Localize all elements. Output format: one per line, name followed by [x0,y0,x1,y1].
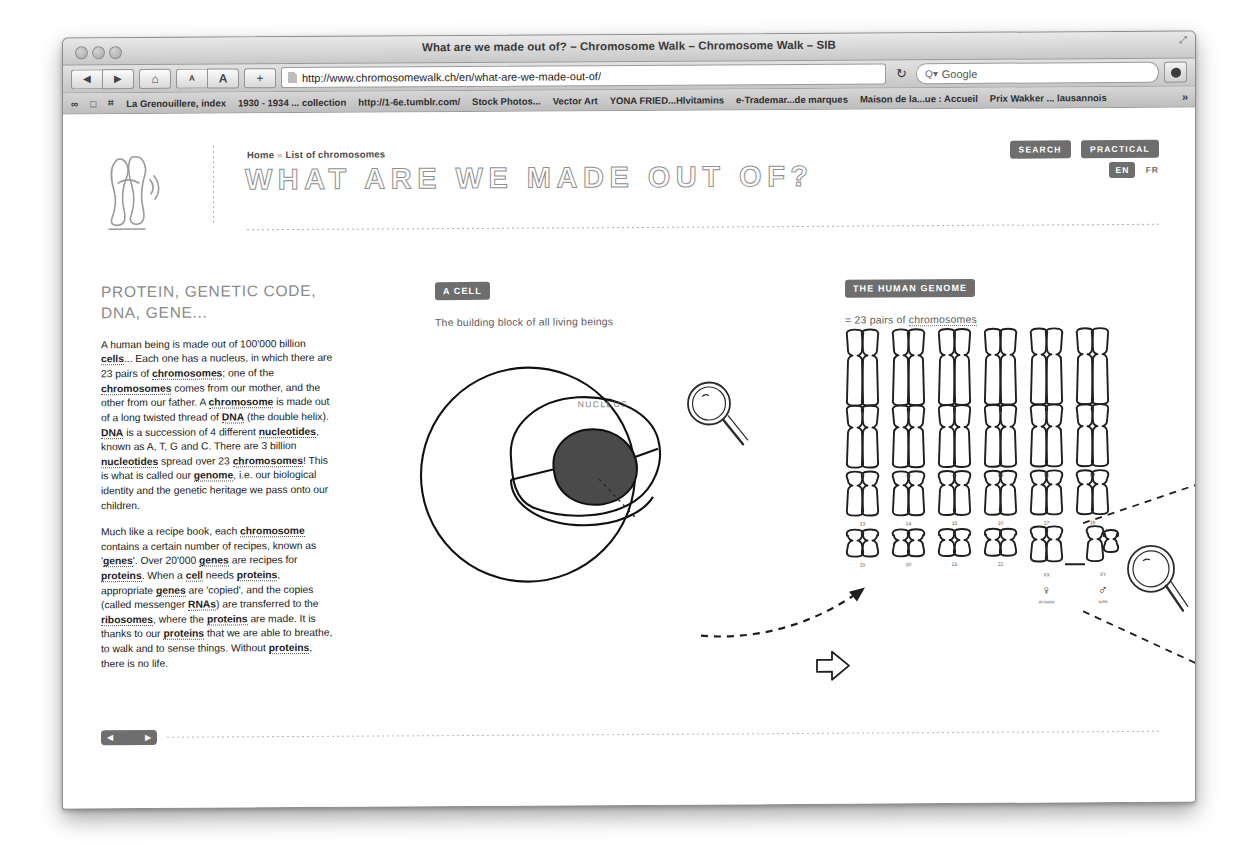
back-button[interactable]: ◀ [71,69,102,89]
forward-button[interactable]: ▶ [102,69,134,89]
female-symbol: ♀ [1042,582,1052,597]
bookmark-item[interactable]: http://1-6e.tumblr.com/ [358,96,460,108]
toolbar-extras-button[interactable] [1164,62,1187,83]
reload-button[interactable]: ↻ [891,65,911,83]
bookmark-item[interactable]: Prix Wakker ... lausannois [990,92,1107,104]
glossary-term: chromosomes [233,455,303,467]
chromosome-logo-icon[interactable] [101,150,171,232]
body-text: spread over 23 [158,455,232,466]
chromosome-shape [1092,404,1109,466]
body-text: needs [203,569,237,580]
glossary-term: chromosomes [152,368,222,380]
chromosome-number-label: 21 [952,561,958,567]
nucleolus-blob [553,429,637,505]
header-actions: SEARCH PRACTICAL EN FR [1004,138,1159,176]
glossary-term: proteins [207,613,248,625]
glossary-term: genes [156,584,186,596]
chromosome-number-label: 9 [953,472,956,478]
chromosome-number-label: 3 [953,410,956,416]
chromosome-number-label: 5 [1045,409,1048,415]
body-text: '. Over 20'000 [133,555,199,566]
increase-text-size-button[interactable]: A [207,68,239,88]
chromosome-number-label: 1 [861,411,864,417]
page-title: WHAT ARE WE MADE OUT OF? [245,160,814,196]
book-icon[interactable]: □ [90,98,96,109]
page-favicon [288,72,297,83]
glossary-term: genome [194,470,233,482]
bookmark-item[interactable]: e-Trademar...de marques [736,93,848,105]
chromosome-number-label: 16 [998,520,1004,526]
nucleus-fold-right [635,449,658,457]
chromosome-shape [954,471,971,515]
magnifier-right-icon [1128,546,1188,611]
chromosome-shape [954,405,971,467]
article-heading: PROTEIN, GENETIC CODE, DNA, GENE... [101,281,333,324]
add-bookmark-button[interactable]: + [244,68,276,88]
pager-control[interactable]: ◀ ▶ [101,730,157,745]
glossary-term: cell [186,570,203,582]
body-text: Much like a recipe book, each [101,526,240,538]
article-column: PROTEIN, GENETIC CODE, DNA, GENE... A hu… [101,281,333,684]
cell-section: A CELL The building block of all living … [435,278,815,328]
address-bar[interactable]: http://www.chromosomewalk.ch/en/what-are… [281,63,886,88]
lang-en-button[interactable]: EN [1109,162,1135,178]
chromosome-shape [862,471,879,515]
bookmark-item[interactable]: La Grenouillere, index [126,97,226,109]
bookmark-item[interactable]: 1930 - 1934 ... collection [238,96,346,108]
chromosome-number-label: 4 [999,410,1002,416]
glossary-term: proteins [163,628,204,640]
url-text: http://www.chromosomewalk.ch/en/what-are… [302,70,601,84]
chromosome-number-label: 11 [1044,471,1049,477]
bookmark-item[interactable]: Stock Photos... [472,95,541,106]
chromosome-number-label: 2 [907,410,910,416]
chromosome-shape [908,405,925,467]
extras-dot-icon [1171,67,1181,77]
body-text: . When a [142,570,186,581]
body-text: , where the [153,613,207,624]
grid-icon[interactable]: ⌗ [108,97,114,109]
glossary-term: RNAs [188,599,216,611]
practical-button[interactable]: PRACTICAL [1081,140,1159,158]
glossary-term: nucleotides [101,456,158,468]
browser-window: What are we made out of? – Chromosome Wa… [62,31,1196,810]
chromosome-number-label: 15 [952,520,958,526]
chromosome-shape [1077,328,1094,404]
reading-glasses-icon[interactable]: ∞ [71,98,78,109]
chromosome-shape [954,329,971,405]
chromosome-shape [1000,329,1017,405]
decrease-text-size-button[interactable]: A [176,68,207,88]
body-text: A human being is made out of 100'000 bil… [101,338,306,350]
prev-page-button[interactable]: ◀ [107,733,113,742]
glossary-term: cells [101,354,124,366]
female-label: WOMAN [1039,599,1055,604]
chromosome-shape [847,330,864,406]
chromosome-shape [985,329,1002,405]
home-button[interactable]: ⌂ [139,68,171,88]
chromosome-shape [1000,405,1017,467]
glossary-term: chromosome [209,396,274,408]
bookmark-item[interactable]: Maison de la...ue : Accueil [860,92,978,104]
zoom-callout-right [1083,462,1195,693]
nucleus-label: NUCLEUS [578,399,628,409]
body-text: is a succession of 4 different [123,426,258,438]
next-page-button[interactable]: ▶ [145,733,151,742]
text-size-group: A A [176,68,239,88]
genome-section: THE HUMAN GENOME = 23 pairs of chromosom… [845,276,1165,326]
bookmarks-overflow-button[interactable]: » [1182,91,1188,103]
window-resize-handle[interactable]: ⤢ [1179,34,1193,48]
footer-dotted-rule [167,731,1159,738]
breadcrumb-home-link[interactable]: Home [247,149,274,160]
glossary-term: proteins [237,569,278,581]
lang-fr-button[interactable]: FR [1146,165,1159,175]
chromosome-number-label: 20 [906,561,912,567]
bookmark-item[interactable]: YONA FRIED...Hlvitamins [610,94,724,106]
glossary-term: chromosome [240,525,305,537]
body-text: ; one of the [222,367,274,378]
breadcrumb-current: List of chromosomes [285,148,385,160]
footer-navigation: ◀ ▶ [101,724,1159,752]
bookmark-item[interactable]: Vector Art [553,95,598,106]
browser-search-field[interactable]: Q▾ Google [916,62,1159,84]
search-button[interactable]: SEARCH [1010,140,1071,158]
search-placeholder: Google [942,67,977,79]
glossary-term: chromosomes [101,382,171,394]
